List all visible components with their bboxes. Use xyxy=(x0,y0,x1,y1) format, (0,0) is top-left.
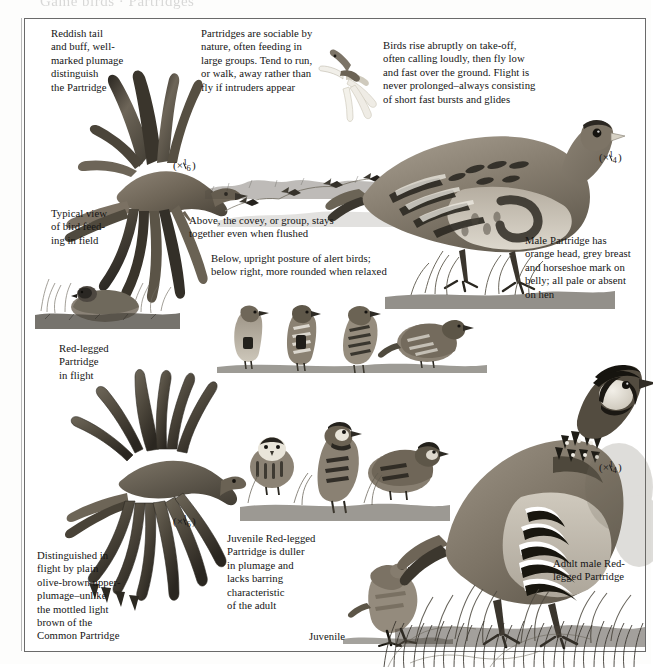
caption-posture: Below, upright posture of alert birds; b… xyxy=(211,252,461,279)
scale-partridge-flight: (×16) xyxy=(173,159,196,171)
caption-reddish-tail: Reddish tail and buff, well- marked plum… xyxy=(51,27,171,94)
caption-sociable: Partridges are sociable by nature, often… xyxy=(201,27,381,94)
caption-juvenile-label: Juvenile xyxy=(309,630,379,643)
caption-typical-view: Typical view of bird feed- ing in field xyxy=(51,207,161,247)
caption-distinguished: Distinguished in flight by plain olive-b… xyxy=(37,549,155,643)
scale-redlegged-flight: (×16) xyxy=(173,515,196,527)
redlegged-adult-large xyxy=(395,347,645,647)
scale-redlegged-adult: (×14) xyxy=(599,461,622,473)
caption-covey: Above, the covey, or group, stays togeth… xyxy=(189,214,419,241)
partridge-feeding xyxy=(35,249,180,329)
caption-adult-male: Adult male Red- legged Partridge xyxy=(553,557,653,584)
page-header-cutoff: Game birds · Partridges xyxy=(0,0,651,16)
plate-frame: Reddish tail and buff, well- marked plum… xyxy=(24,18,646,652)
caption-take-off: Birds rise abruptly on take-off, often c… xyxy=(383,39,613,106)
caption-red-legged-flight: Red-legged Partridge in flight xyxy=(59,342,169,382)
caption-juvenile-desc: Juvenile Red-legged Partridge is duller … xyxy=(227,532,357,612)
page-header-cutoff-text: Game birds · Partridges xyxy=(40,0,194,10)
caption-male-partridge: Male Partridge has orange head, grey bre… xyxy=(525,234,650,301)
foreground-grass-band xyxy=(380,611,645,669)
scale-partridge-standing: (×14) xyxy=(599,151,622,163)
